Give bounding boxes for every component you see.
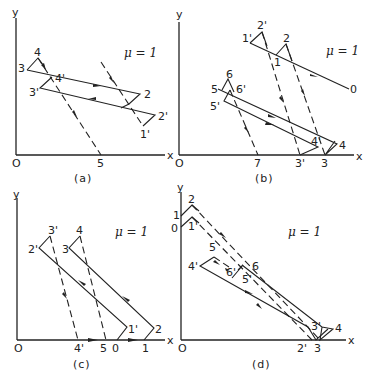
dashed-upper-1p [101, 62, 143, 126]
x-axis-label: x [167, 334, 174, 347]
point-label: 3 [18, 62, 25, 75]
chevron-1-2 [181, 205, 199, 216]
x-tick-label: 3 [314, 342, 321, 355]
x-tick-label: 4' [74, 342, 84, 355]
point-label: 3' [48, 224, 58, 237]
x-axis-label: x [356, 150, 363, 163]
arrow-icon [265, 122, 274, 125]
point-label: 4 [339, 139, 346, 152]
dashed-4-5 [38, 58, 101, 155]
point-label: 0 [171, 222, 178, 235]
panel-d: y x O μ = 1 1 0 2 1' 5 4' 6' 6 5' 3' 4 2… [171, 181, 355, 371]
origin-label: O [12, 157, 21, 170]
point-label: 3' [29, 86, 39, 99]
arrow-icon [245, 290, 253, 294]
point-label: 3 [62, 243, 69, 256]
arrow-icon [244, 126, 249, 133]
mu-label: μ = 1 [124, 46, 157, 60]
x-tick-label: 2' [297, 342, 307, 355]
point-label: 5' [210, 100, 220, 113]
point-label: 4' [311, 135, 321, 148]
point-label: 2' [257, 19, 267, 32]
point-label: 2' [28, 243, 38, 256]
point-label: 4 [76, 224, 83, 237]
mu-label: μ = 1 [288, 225, 321, 239]
point-label: 2 [155, 323, 162, 336]
y-axis-label: y [13, 188, 20, 201]
point-label: 4' [188, 260, 198, 273]
point-label: 1 [274, 56, 281, 69]
panel-caption: (a) [74, 172, 92, 185]
y-axis-label: y [177, 181, 184, 194]
arrow-icon [128, 338, 138, 342]
point-label: 2 [283, 32, 290, 45]
x-axis-label: x [348, 334, 355, 347]
point-label: 1' [188, 220, 198, 233]
y-axis-label: y [12, 6, 19, 19]
point-label: 3' [311, 320, 321, 333]
x-tick-label: 3 [321, 157, 328, 170]
point-label: 1' [242, 32, 252, 45]
point-label: 4 [335, 322, 342, 335]
point-label: 2 [188, 193, 195, 206]
point-label: 5' [242, 273, 252, 286]
arrow-icon [41, 63, 46, 70]
panel-c: y x O μ = 1 3' 4 2' 3 1' 2 4' 5 0 1 (c) [13, 188, 174, 371]
point-label: 1' [128, 323, 138, 336]
origin-label: O [178, 342, 187, 355]
dashed-2p-3p [262, 32, 300, 155]
arrow-icon [88, 338, 98, 342]
origin-label: O [14, 342, 23, 355]
point-label: 5 [211, 83, 218, 96]
point-label: 1' [140, 128, 150, 141]
x-axis-label: x [167, 149, 174, 162]
mu-label: μ = 1 [326, 44, 359, 58]
x-tick-label: 7 [254, 157, 261, 170]
arrow-icon [109, 76, 114, 83]
point-label: 6' [226, 266, 236, 279]
phase-diagram-figure: y x O μ = 1 3 4 4' 3' 2 2' 1' 5 (a) y x … [0, 0, 370, 376]
x-tick-label: 5 [100, 342, 107, 355]
y-axis-label: y [176, 8, 183, 21]
point-label: 1 [173, 209, 180, 222]
point-label: 4' [55, 72, 65, 85]
trajectory-2p-1p [39, 236, 127, 340]
point-label: 4 [34, 46, 41, 59]
x-tick-label: 5 [97, 157, 104, 170]
point-label: 6' [236, 83, 246, 96]
arrow-icon [268, 114, 276, 118]
x-tick-label: 0 [112, 342, 119, 355]
arrow-icon [72, 110, 77, 117]
panel-caption: (d) [252, 358, 271, 371]
arrow-icon [256, 303, 262, 309]
point-label: 6 [252, 260, 259, 273]
point-label: 2' [158, 110, 168, 123]
arrow-icon [78, 280, 86, 286]
x-tick-label: 1 [142, 342, 149, 355]
panel-b: y x O μ = 1 1' 2' 2 1 0 5 6 6' 5' 4' 4 7 [175, 8, 363, 185]
point-label: 5 [209, 241, 216, 254]
trajectory-5p-4p [224, 90, 318, 155]
panel-caption: (c) [73, 358, 91, 371]
panel-a: y x O μ = 1 3 4 4' 3' 2 2' 1' 5 (a) [12, 6, 174, 185]
point-label: 0 [350, 83, 357, 96]
point-label: 6 [226, 68, 233, 81]
point-label: 2 [144, 88, 151, 101]
x-tick-label: 3' [295, 157, 305, 170]
dashed-6p-7 [230, 90, 258, 155]
mu-label: μ = 1 [115, 225, 148, 239]
trajectory-4p-3p [200, 257, 328, 340]
panel-caption: (b) [255, 172, 274, 185]
trajectory-3-2 [69, 236, 154, 340]
origin-label: O [175, 157, 184, 170]
